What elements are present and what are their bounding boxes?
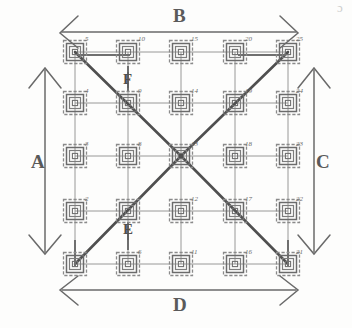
interior-label-f: F <box>123 72 132 87</box>
node-label-19: 19 <box>245 88 252 95</box>
node-label-15: 15 <box>191 36 198 43</box>
node-label-14: 14 <box>191 88 198 95</box>
node-label-22: 22 <box>296 196 303 203</box>
node-label-4: 4 <box>85 88 89 95</box>
grid-array-figure: 5 10 15 20 25 4 9 14 19 24 3 8 13 18 23 … <box>0 0 352 328</box>
node-label-9: 9 <box>138 88 142 95</box>
diagonal-13-to-21 <box>181 156 288 264</box>
node-label-25: 25 <box>296 36 303 43</box>
edge-label-d: D <box>173 295 187 314</box>
node-label-23: 23 <box>296 141 303 148</box>
node-label-12: 12 <box>191 196 198 203</box>
diagram-canvas <box>0 0 352 328</box>
edge-label-c: C <box>316 152 330 171</box>
node-label-20: 20 <box>245 36 252 43</box>
node-label-5: 5 <box>85 36 89 43</box>
node-label-17: 17 <box>245 196 252 203</box>
node-label-21: 21 <box>296 249 303 256</box>
node-label-16: 16 <box>245 249 252 256</box>
diagonal-interconnects <box>75 52 288 264</box>
node-label-1: 1 <box>85 249 89 256</box>
node-label-3: 3 <box>85 141 89 148</box>
edge-label-a: A <box>31 152 45 171</box>
node-label-8: 8 <box>138 141 142 148</box>
node-label-7: 7 <box>138 196 142 203</box>
connector-stubs <box>75 55 288 266</box>
node-label-2: 2 <box>85 196 89 203</box>
node-label-6: 6 <box>138 249 142 256</box>
edge-label-b: B <box>173 6 186 25</box>
node-label-18: 18 <box>245 141 252 148</box>
corner-mark: ɔ <box>337 0 343 16</box>
node-label-13: 13 <box>191 141 198 148</box>
node-label-10: 10 <box>138 36 145 43</box>
interior-label-e: E <box>123 222 133 237</box>
node-label-24: 24 <box>296 88 303 95</box>
node-label-11: 11 <box>191 249 197 256</box>
